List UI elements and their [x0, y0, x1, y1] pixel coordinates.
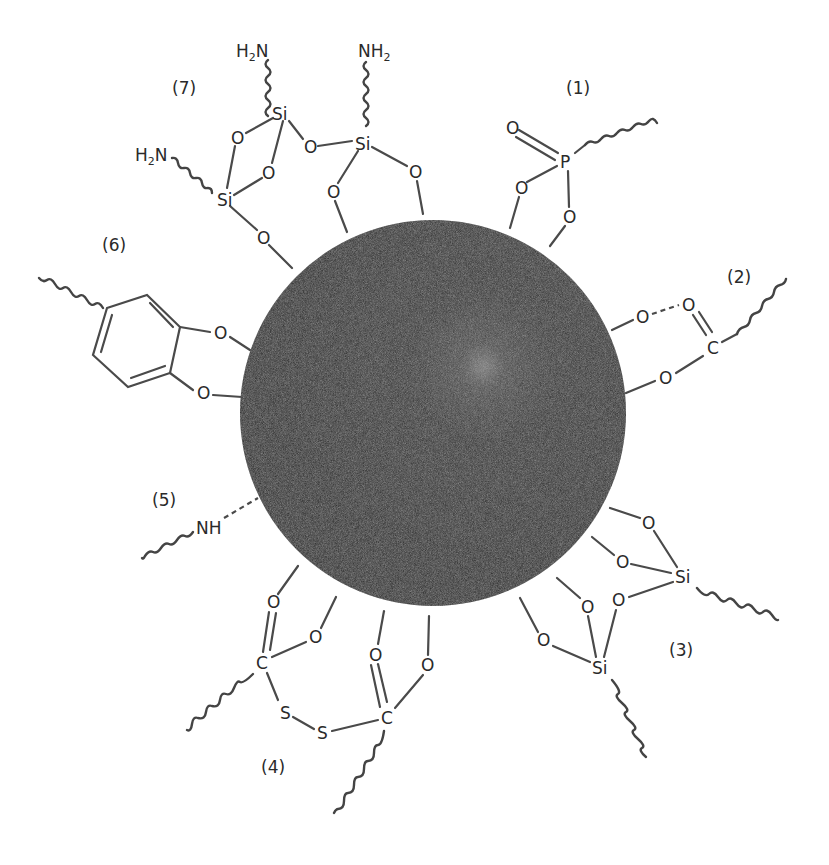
atom-O: O	[682, 295, 695, 315]
atom-O: O	[327, 182, 340, 202]
atom-O: O	[369, 645, 382, 665]
group-label-1: (1)	[566, 78, 590, 98]
group-label-5: (5)	[152, 490, 176, 510]
atom-O: O	[581, 597, 594, 617]
group-label-6: (6)	[102, 235, 126, 255]
atom-Si: Si	[217, 190, 233, 210]
atom-O: O	[257, 228, 270, 248]
atom-O: O	[309, 627, 322, 647]
atom-O: O	[563, 207, 576, 227]
atom-O: O	[197, 383, 210, 403]
nanoparticle-ligand-diagram: H2N NH2 H2N Si Si Si O O O O O O O P O O…	[0, 0, 829, 865]
group-label-4: (4)	[261, 757, 285, 777]
nanoparticle-core	[240, 220, 626, 606]
atom-O: O	[262, 163, 275, 183]
atom-P: P	[560, 152, 570, 172]
atom-H2N-top: H2N	[236, 41, 269, 64]
atom-O: O	[636, 307, 649, 327]
atom-O: O	[612, 590, 625, 610]
atom-O: O	[267, 592, 280, 612]
atom-O: O	[515, 178, 528, 198]
atom-S: S	[317, 723, 328, 743]
atom-S: S	[280, 703, 291, 723]
atom-Si: Si	[272, 104, 288, 124]
atom-O: O	[304, 137, 317, 157]
group-label-3: (3)	[669, 640, 693, 660]
atom-O: O	[506, 118, 519, 138]
atom-O: O	[616, 552, 629, 572]
atom-NH2-top: NH2	[358, 41, 391, 64]
atom-H2N-left: H2N	[135, 145, 168, 168]
atom-C: C	[256, 653, 268, 673]
atom-O: O	[642, 513, 655, 533]
atom-C: C	[707, 338, 719, 358]
atom-O: O	[537, 630, 550, 650]
atom-O: O	[231, 128, 244, 148]
atom-C: C	[381, 708, 393, 728]
group-label-2: (2)	[727, 267, 751, 287]
atom-O: O	[409, 162, 422, 182]
group-label-7: (7)	[172, 78, 196, 98]
atom-Si: Si	[675, 567, 691, 587]
atom-O: O	[421, 655, 434, 675]
atom-O: O	[659, 368, 672, 388]
atom-Si: Si	[592, 658, 608, 678]
atom-Si: Si	[355, 134, 371, 154]
atom-NH: NH	[196, 518, 222, 538]
atom-O: O	[214, 323, 227, 343]
